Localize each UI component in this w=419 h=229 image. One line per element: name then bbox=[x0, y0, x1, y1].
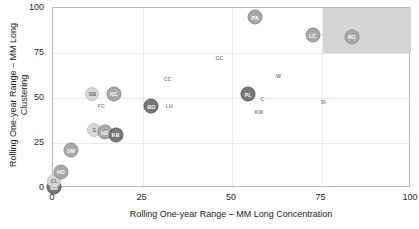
x-axis-tick-label: 25 bbox=[122, 192, 162, 202]
scatter-point: LC bbox=[305, 28, 320, 43]
scatter-chart: Rolling One-year Range – MM Long Cluster… bbox=[0, 0, 419, 229]
scatter-point: NG bbox=[344, 29, 359, 44]
y-axis-tick-label: 0 bbox=[0, 182, 44, 192]
y-axis-tick-label: 50 bbox=[0, 92, 44, 102]
gridline-vertical bbox=[232, 8, 233, 186]
gridline-vertical bbox=[143, 8, 144, 186]
scatter-point: GC bbox=[212, 51, 226, 65]
gridline-horizontal bbox=[53, 143, 409, 144]
scatter-point: SM bbox=[63, 143, 78, 158]
shaded-quadrant bbox=[322, 8, 412, 53]
x-axis-tick-label: 0 bbox=[32, 192, 72, 202]
scatter-point: PA bbox=[248, 10, 263, 25]
gridline-horizontal bbox=[53, 53, 409, 54]
scatter-point: BO bbox=[144, 99, 159, 114]
scatter-point: PL bbox=[241, 87, 256, 102]
x-axis-tick-label: 100 bbox=[390, 192, 419, 202]
scatter-point: KC bbox=[106, 86, 121, 101]
x-axis-tick-label: 50 bbox=[211, 192, 251, 202]
scatter-point: HO bbox=[53, 164, 68, 179]
scatter-point: FC bbox=[94, 99, 108, 113]
y-axis-tick-label: 100 bbox=[0, 2, 44, 12]
gridline-horizontal bbox=[53, 98, 409, 99]
plot-panel: BBCLHOSMSHGKBSBKCFCBOLHCCGCPAPLCKWWLCSIN… bbox=[52, 7, 410, 187]
scatter-point: KB bbox=[108, 127, 123, 142]
scatter-point: C bbox=[255, 92, 269, 106]
y-axis-tick-label: 25 bbox=[0, 137, 44, 147]
scatter-point: W bbox=[272, 69, 286, 83]
x-axis-tick-label: 75 bbox=[301, 192, 341, 202]
x-axis-title: Rolling One-year Range – MM Long Concent… bbox=[52, 209, 410, 219]
scatter-point: LH bbox=[162, 99, 176, 113]
y-axis-tick-label: 75 bbox=[0, 47, 44, 57]
scatter-point: KW bbox=[252, 105, 266, 119]
scatter-point: CC bbox=[161, 72, 175, 86]
scatter-point: SI bbox=[316, 95, 330, 109]
